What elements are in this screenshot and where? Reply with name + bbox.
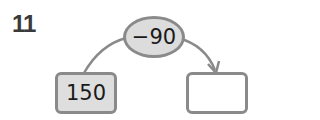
answer-box[interactable]	[186, 72, 248, 114]
input-value: 150	[66, 81, 106, 105]
input-box: 150	[55, 72, 117, 114]
operation-oval: −90	[123, 16, 185, 58]
operation-label: −90	[132, 25, 176, 49]
